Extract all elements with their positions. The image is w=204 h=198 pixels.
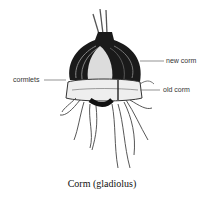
label-cormlets: cormlets [13, 76, 39, 83]
gladiolus-corm-illustration [0, 0, 204, 198]
new-corm [69, 32, 141, 82]
label-old-corm: old corm [163, 86, 190, 93]
roots [60, 98, 152, 168]
label-new-corm: new corm [166, 57, 196, 64]
figure-caption: Corm (gladiolus) [0, 178, 204, 189]
shoot-tips [93, 9, 107, 34]
